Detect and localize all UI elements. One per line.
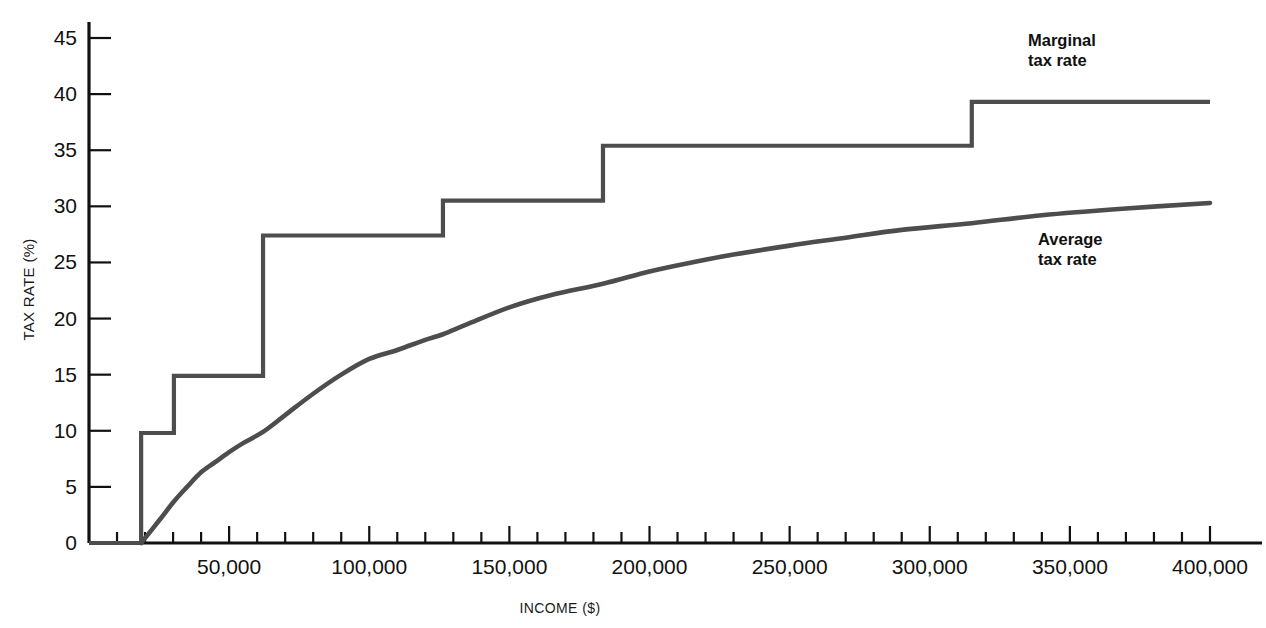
y-tick-label: 20 — [54, 307, 77, 330]
y-tick-label: 10 — [54, 419, 77, 442]
x-tick-label: 200,000 — [612, 555, 688, 578]
series-annotation-marginal-line2: tax rate — [1028, 50, 1096, 70]
x-tick-label: 400,000 — [1172, 555, 1248, 578]
chart-figure: 05101520253035404550,000100,000150,00020… — [0, 0, 1266, 628]
x-tick-label: 300,000 — [892, 555, 968, 578]
series-line-marginal-tax-rate — [89, 102, 1210, 543]
y-tick-label: 45 — [54, 26, 77, 49]
y-tick-label: 5 — [65, 475, 77, 498]
y-axis-title: TAX RATE (%) — [20, 190, 37, 390]
y-tick-label: 15 — [54, 363, 77, 386]
series-annotation-average-line2: tax rate — [1038, 249, 1103, 269]
chart-canvas: 05101520253035404550,000100,000150,00020… — [0, 0, 1266, 628]
x-tick-label: 50,000 — [197, 555, 261, 578]
series-annotation-marginal: Marginal tax rate — [1028, 30, 1096, 70]
series-annotation-marginal-line1: Marginal — [1028, 30, 1096, 50]
y-tick-label: 35 — [54, 138, 77, 161]
series-annotation-average: Average tax rate — [1038, 229, 1103, 269]
x-tick-label: 250,000 — [752, 555, 828, 578]
x-tick-label: 150,000 — [471, 555, 547, 578]
y-tick-label: 25 — [54, 250, 77, 273]
series-annotation-average-line1: Average — [1038, 229, 1103, 249]
y-tick-label: 30 — [54, 194, 77, 217]
x-tick-label: 100,000 — [331, 555, 407, 578]
x-axis-title: INCOME ($) — [519, 600, 600, 616]
y-tick-label: 40 — [54, 82, 77, 105]
x-tick-label: 350,000 — [1032, 555, 1108, 578]
y-tick-label: 0 — [65, 531, 77, 554]
